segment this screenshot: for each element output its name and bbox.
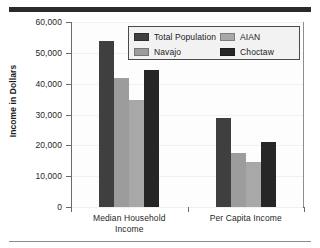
x-tick-mark bbox=[304, 207, 305, 212]
bar bbox=[261, 142, 276, 207]
y-tick-label: 0 bbox=[57, 202, 62, 212]
y-tick-label: 30,000 bbox=[35, 110, 62, 120]
x-group-label-line: Per Capita Income bbox=[188, 213, 305, 224]
bar bbox=[114, 78, 129, 207]
legend-swatch-icon bbox=[220, 48, 235, 56]
bar bbox=[144, 70, 159, 207]
y-tick-label: 50,000 bbox=[35, 48, 62, 58]
y-tick-label: 10,000 bbox=[35, 171, 62, 181]
top-rule bbox=[9, 7, 311, 12]
bar bbox=[231, 153, 246, 207]
legend-swatch-icon bbox=[134, 48, 149, 56]
legend-swatch-icon bbox=[134, 33, 149, 41]
y-tick-label: 60,000 bbox=[35, 17, 62, 27]
x-group-label-line: Median Household bbox=[71, 213, 188, 224]
legend-label: Choctaw bbox=[240, 47, 274, 57]
y-tick-label: 40,000 bbox=[35, 79, 62, 89]
legend-item: AIAN bbox=[220, 30, 294, 43]
legend-item: Choctaw bbox=[220, 45, 294, 58]
bar bbox=[129, 100, 144, 207]
x-group-label: Per Capita Income bbox=[188, 213, 305, 224]
x-group-label: Median HouseholdIncome bbox=[71, 213, 188, 235]
legend-label: Total Population bbox=[154, 32, 216, 42]
bar bbox=[216, 118, 231, 207]
legend-label: Navajo bbox=[154, 47, 181, 57]
bar bbox=[99, 41, 114, 208]
legend-item: Total Population bbox=[134, 30, 216, 43]
bar bbox=[246, 162, 261, 207]
legend-swatch-icon bbox=[220, 33, 235, 41]
chart-legend: Total PopulationAIANNavajoChoctaw bbox=[128, 26, 300, 60]
bottom-rule bbox=[9, 241, 311, 242]
y-tick-label: 20,000 bbox=[35, 140, 62, 150]
y-axis-title: Income in Dollars bbox=[8, 41, 18, 161]
legend-item: Navajo bbox=[134, 45, 216, 58]
x-tick-mark bbox=[71, 207, 72, 212]
chart-figure: Income in Dollars 010,00020,00030,00040,… bbox=[0, 0, 320, 248]
x-tick-mark bbox=[188, 207, 189, 212]
legend-label: AIAN bbox=[240, 32, 260, 42]
x-group-label-line: Income bbox=[71, 224, 188, 235]
